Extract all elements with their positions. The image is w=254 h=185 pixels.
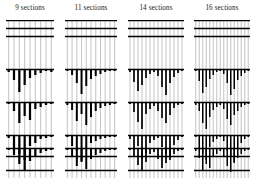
panel-title: 14 sections [139,4,172,12]
panel-14-sections: 14 sections [128,0,184,185]
comb-group [196,148,249,172]
section-diagram [65,20,117,178]
section-diagram [194,20,250,178]
vertical-section-lines [196,20,249,178]
comb-group [196,69,249,95]
figure-root: 9 sections11 sections14 sections16 secti… [0,0,254,185]
comb-group [196,102,249,129]
section-diagram [6,20,54,178]
panel-16-sections: 16 sections [194,0,250,185]
horizontal-rules [128,21,184,171]
panel-11-sections: 11 sections [65,0,117,185]
panel-9-sections: 9 sections [6,0,54,185]
panel-title: 9 sections [15,4,45,12]
section-diagram [128,20,184,178]
panel-title: 11 sections [75,4,108,12]
panel-title: 16 sections [205,4,238,12]
comb-group [9,102,52,123]
